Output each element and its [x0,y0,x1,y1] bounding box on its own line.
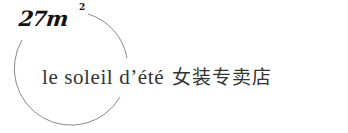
tagline-latin: le soleil d’été [42,65,164,89]
tagline-chinese: 女装专卖店 [172,66,272,88]
brand-superscript: 2 [79,2,85,12]
store-logo: 27m 2 le soleil d’été 女装专卖店 [0,0,348,133]
tagline: le soleil d’été 女装专卖店 [42,62,272,90]
brand-mark: 27m [18,6,69,31]
